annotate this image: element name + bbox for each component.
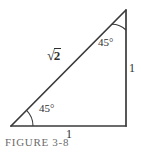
- side-label-vertical-leg: 1: [129, 62, 135, 74]
- triangle-hypotenuse-line: [11, 10, 126, 126]
- angle-label-top-right: 45°: [98, 37, 113, 48]
- side-label-hypotenuse: √2: [47, 48, 61, 63]
- angle-arc-bottom-left: [27, 110, 33, 126]
- angle-label-bottom-left: 45°: [39, 103, 54, 114]
- figure-caption: FIGURE 3-8: [5, 136, 69, 148]
- radical-expression: √2: [47, 48, 61, 63]
- radicand-value: 2: [54, 48, 62, 63]
- figure-3-8: 45° 45° 1 1 √2 FIGURE 3-8: [0, 0, 141, 154]
- angle-arc-top-right: [112, 24, 126, 30]
